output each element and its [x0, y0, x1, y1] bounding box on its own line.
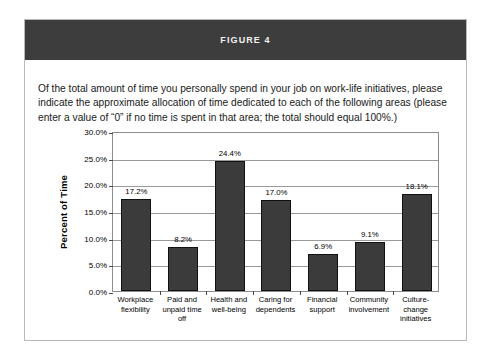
bar[interactable] — [355, 242, 385, 291]
x-axis-category-labels: Workplace flexibilityPaid and unpaid tim… — [112, 295, 439, 339]
bar[interactable] — [215, 161, 245, 291]
bar[interactable] — [261, 200, 291, 291]
bar-slot: 17.0% — [253, 133, 300, 291]
y-axis-tick-label: 15.0% — [84, 208, 107, 217]
bar-slot: 24.4% — [206, 133, 253, 291]
figure-header-banner: FIGURE 4 — [25, 20, 466, 60]
y-axis-tick-mark — [109, 186, 113, 187]
x-axis-category-label: Culture-change initiatives — [392, 295, 439, 324]
y-axis-tick-label: 0.0% — [89, 288, 107, 297]
bar-slot: 6.9% — [300, 133, 347, 291]
y-axis-tick-label: 25.0% — [84, 154, 107, 163]
x-axis-category-label: Health and well-being — [205, 295, 252, 314]
y-axis-tick-label: 30.0% — [84, 128, 107, 137]
x-axis-category-label: Paid and unpaid time off — [159, 295, 206, 324]
bar[interactable] — [168, 247, 198, 291]
bar-value-label: 6.9% — [314, 242, 332, 251]
y-axis-tick-mark — [109, 293, 113, 294]
bar-chart: Percent of Time 0.0%5.0%10.0%15.0%20.0%2… — [25, 132, 467, 340]
y-axis-tick-labels: 0.0%5.0%10.0%15.0%20.0%25.0%30.0% — [69, 132, 111, 292]
figure-title: FIGURE 4 — [220, 35, 270, 45]
bar-slot: 8.2% — [160, 133, 207, 291]
y-axis-tick-label: 20.0% — [84, 181, 107, 190]
bar[interactable] — [402, 194, 432, 291]
bar-value-label: 8.2% — [174, 235, 192, 244]
bar-value-label: 9.1% — [361, 230, 379, 239]
bars-layer: 17.2%8.2%24.4%17.0%6.9%9.1%18.1% — [113, 133, 438, 291]
x-axis-category-label: Caring for dependents — [252, 295, 299, 314]
y-axis-tick-mark — [109, 160, 113, 161]
x-axis-category-label: Workplace flexibility — [112, 295, 159, 314]
y-axis-tick-mark — [109, 133, 113, 134]
figure-container: FIGURE 4 Of the total amount of time you… — [24, 19, 467, 341]
x-axis-category-label: Community involvement — [346, 295, 393, 314]
y-axis-tick-mark — [109, 266, 113, 267]
bar-value-label: 17.2% — [125, 187, 147, 196]
bar-value-label: 17.0% — [265, 188, 287, 197]
bar-slot: 18.1% — [393, 133, 440, 291]
plot-area: 17.2%8.2%24.4%17.0%6.9%9.1%18.1% — [112, 132, 439, 292]
y-axis-tick-mark — [109, 240, 113, 241]
bar[interactable] — [308, 254, 338, 291]
y-axis-tick-label: 10.0% — [84, 234, 107, 243]
bar-value-label: 24.4% — [219, 149, 241, 158]
bar[interactable] — [121, 199, 151, 291]
bar-slot: 9.1% — [347, 133, 394, 291]
y-axis-title: Percent of Time — [56, 160, 70, 264]
bar-value-label: 18.1% — [406, 182, 428, 191]
figure-prompt-text: Of the total amount of time you personal… — [38, 82, 453, 125]
x-axis-category-label: Financial support — [299, 295, 346, 314]
y-axis-tick-label: 5.0% — [89, 261, 107, 270]
y-axis-tick-mark — [109, 213, 113, 214]
bar-slot: 17.2% — [113, 133, 160, 291]
